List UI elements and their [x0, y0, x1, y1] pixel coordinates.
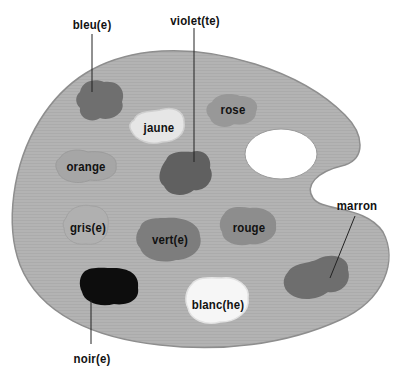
label-marron: marron [337, 198, 377, 213]
label-blanc: blanc(he) [192, 297, 244, 312]
label-bleu: bleu(e) [73, 17, 112, 32]
label-jaune: jaune [144, 120, 175, 135]
label-violet: violet(te) [170, 13, 219, 28]
label-rose: rose [221, 102, 246, 117]
paint-blob-noir [80, 268, 138, 306]
thumb-hole [245, 129, 317, 179]
palette-illustration [0, 0, 402, 377]
label-gris: gris(e) [70, 220, 106, 235]
paint-blob-bleu [76, 80, 123, 120]
palette-diagram: bleu(e) violet(te) jaune rose orange gri… [0, 0, 402, 377]
label-orange: orange [66, 159, 105, 174]
label-vert: vert(e) [152, 232, 188, 247]
label-noir: noir(e) [74, 351, 111, 366]
label-rouge: rouge [233, 220, 266, 235]
